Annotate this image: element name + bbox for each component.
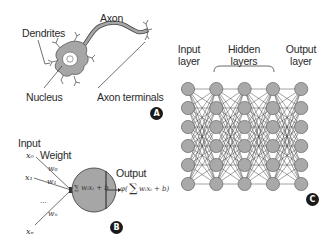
weight-wn: wₙ	[48, 210, 57, 218]
input-ellipsis: ...	[40, 198, 47, 205]
network-node	[181, 177, 194, 190]
network-node	[266, 101, 279, 114]
label-output: Output	[116, 168, 146, 179]
network-node	[210, 139, 223, 152]
panel-c-badge: C	[306, 193, 319, 206]
activation-prefix: φ(	[120, 186, 128, 193]
panel-a-badge: A	[150, 107, 163, 120]
network-node	[295, 177, 308, 190]
network-node	[181, 158, 194, 171]
network-node	[295, 120, 308, 133]
weight-w1: w₁	[47, 178, 56, 186]
network-node	[266, 82, 279, 95]
network-node	[266, 139, 279, 152]
network-node	[181, 120, 194, 133]
label-hidden-layers-2: layers	[224, 56, 264, 67]
label-hidden-layers-1: Hidden	[224, 44, 264, 55]
label-axon: Axon	[100, 13, 123, 24]
neural-network-figure: Dendrites Axon Nucleus Axon terminals A …	[0, 0, 336, 249]
input-x0: x₀	[26, 152, 34, 160]
label-output-layer-1: Output	[281, 44, 321, 55]
network-node	[238, 139, 251, 152]
network-node	[210, 158, 223, 171]
input-xn: xₙ	[26, 228, 34, 236]
activation-body: wᵢxᵢ + b)	[139, 186, 169, 193]
network-node	[210, 177, 223, 190]
network-node	[295, 139, 308, 152]
label-nucleus: Nucleus	[26, 92, 63, 103]
label-input-layer-1: Input	[174, 44, 204, 55]
network-node	[210, 82, 223, 95]
deep-network-icon	[181, 82, 307, 190]
network-node	[238, 158, 251, 171]
network-node	[210, 101, 223, 114]
network-node	[181, 82, 194, 95]
weight-w0: w₀	[48, 165, 57, 173]
network-node	[181, 101, 194, 114]
label-input-layer-2: layer	[174, 56, 204, 67]
label-dendrites: Dendrites	[22, 28, 65, 39]
network-node	[210, 120, 223, 133]
network-node	[266, 158, 279, 171]
network-node	[238, 101, 251, 114]
network-node	[295, 101, 308, 114]
input-x1: x₁	[25, 174, 33, 182]
activation-sum-symbol: ∑	[129, 182, 138, 194]
label-output-layer-2: layer	[281, 56, 321, 67]
network-node	[238, 120, 251, 133]
network-node	[238, 177, 251, 190]
network-node	[295, 82, 308, 95]
network-node	[238, 82, 251, 95]
network-node	[266, 177, 279, 190]
network-node	[181, 139, 194, 152]
label-input: Input	[18, 138, 40, 149]
network-node	[266, 120, 279, 133]
panel-b-badge: B	[110, 221, 123, 234]
summation-expression: ∑ wᵢxᵢ + b	[74, 185, 109, 192]
label-axon-terminals: Axon terminals	[97, 92, 164, 103]
network-node	[295, 158, 308, 171]
label-weight: Weight	[40, 150, 71, 161]
